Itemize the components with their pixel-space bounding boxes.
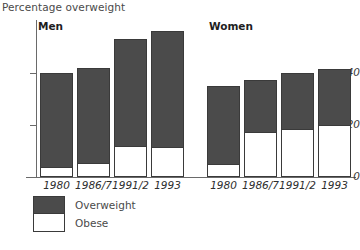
bar-women-1991-2: [281, 73, 314, 177]
bar-segment-obese: [208, 164, 239, 176]
bar-women-1986-7: [244, 80, 277, 178]
x-axis-line: [26, 177, 356, 178]
legend-swatch-obese-icon: [33, 214, 65, 232]
x-axis-label: 1993: [312, 179, 357, 191]
bar-women-1980: [207, 86, 240, 177]
y-tick-mark: [30, 177, 36, 178]
chart-legend: Overweight Obese: [33, 196, 233, 232]
legend-label-obese: Obese: [75, 217, 108, 229]
y-tick-mark: [30, 125, 36, 126]
y-axis-line: [36, 20, 37, 178]
legend-item-obese: Obese: [33, 214, 233, 232]
x-axis-label: 1993: [145, 179, 190, 191]
bar-segment-obese: [115, 146, 146, 176]
bar-segment-obese: [78, 163, 109, 176]
bar-men-1980: [40, 73, 73, 177]
bar-men-1993: [151, 31, 184, 177]
legend-label-overweight: Overweight: [75, 199, 136, 211]
legend-item-overweight: Overweight: [33, 196, 233, 214]
bar-segment-obese: [41, 167, 72, 176]
bar-men-1991-2: [114, 39, 147, 177]
plot-area: 02040 19801986/71991/2199319801986/71991…: [0, 0, 360, 190]
bar-segment-obese: [245, 132, 276, 176]
bar-segment-obese: [319, 125, 350, 176]
overweight-obesity-bar-chart: Percentage overweight Men Women 02040 19…: [0, 0, 360, 250]
bar-segment-obese: [282, 129, 313, 176]
y-tick-mark: [30, 73, 36, 74]
bar-men-1986-7: [77, 68, 110, 177]
bar-segment-obese: [152, 147, 183, 176]
bar-women-1993: [318, 69, 351, 177]
legend-swatch-overweight-icon: [33, 196, 65, 214]
